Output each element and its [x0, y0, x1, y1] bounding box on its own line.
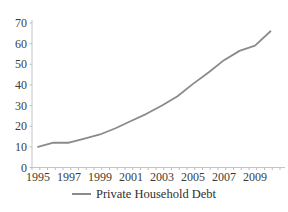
legend-label: Private Household Debt: [96, 188, 216, 201]
x-axis-tick-label: 2009: [243, 170, 267, 184]
y-axis-tick-label: 30: [15, 99, 27, 113]
data-line-private-household-debt: [38, 31, 271, 147]
y-axis-tick-label: 20: [15, 119, 27, 133]
x-axis-tick-label: 2005: [181, 170, 205, 184]
x-axis-tick-label: 2001: [119, 170, 143, 184]
x-axis-tick-label: 2003: [150, 170, 174, 184]
y-axis-tick-label: 10: [15, 140, 27, 154]
x-axis-tick-label: 2007: [212, 170, 236, 184]
y-axis-tick-label: 40: [15, 78, 27, 92]
y-axis-tick-label: 60: [15, 37, 27, 51]
legend: Private Household Debt: [0, 188, 288, 201]
x-axis-tick-label: 1997: [57, 170, 81, 184]
chart-svg: 0102030405060701995199719992001200320052…: [0, 0, 288, 186]
legend-line-swatch: [72, 193, 91, 195]
y-axis-tick-label: 70: [15, 16, 27, 30]
x-axis-tick-label: 1999: [88, 170, 112, 184]
x-axis-tick-label: 1995: [26, 170, 50, 184]
y-axis-tick-label: 50: [15, 57, 27, 71]
line-chart-figure: 0102030405060701995199719992001200320052…: [0, 0, 288, 212]
